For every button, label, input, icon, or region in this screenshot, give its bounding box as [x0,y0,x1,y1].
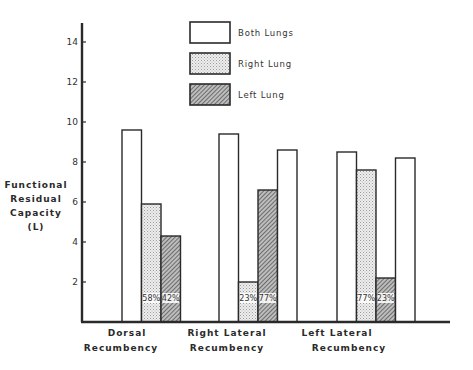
bar [122,130,142,322]
legend-label: Both Lungs [238,28,294,38]
bar [278,150,298,322]
bar-annotation: 42% [162,294,180,303]
y-tick-label: 6 [72,197,78,207]
y-tick-label: 8 [72,157,78,167]
labels: FunctionalResidualCapacity(L)DorsalRecum… [5,180,387,353]
y-axis-label: Residual [10,194,61,204]
y-tick-label: 12 [67,77,78,87]
y-axis-label: (L) [28,222,45,232]
legend-label: Left Lung [238,90,285,100]
x-category-label: Right Lateral [187,328,266,338]
bar [396,158,416,322]
y-axis-label: Functional [5,180,68,190]
y-tick-label: 4 [72,237,78,247]
chart-legend: Both LungsRight LungLeft Lung [190,22,294,105]
y-axis-label: Capacity [10,208,62,218]
bar [142,204,162,322]
bar-annotation: 23% [377,294,395,303]
y-tick-label: 10 [67,117,79,127]
legend-swatch-stipple [190,53,230,74]
x-category-label: Recumbency [312,343,386,353]
bars: 58%42%23%77%77%23% [122,130,415,322]
y-tick-label: 14 [67,37,79,47]
bar [219,134,239,322]
bar-annotation: 23% [239,294,257,303]
bar-annotation: 77% [357,294,375,303]
x-category-label: Left Lateral [301,328,372,338]
bar [161,236,181,322]
bar-annotation: 58% [142,294,160,303]
x-category-label: Recumbency [190,343,264,353]
x-category-label: Dorsal [108,328,147,338]
bar-chart: Both LungsRight LungLeft Lung 58%42%23%7… [0,0,473,370]
legend-swatch-hatch [190,84,230,105]
legend-label: Right Lung [238,59,292,69]
legend-swatch-white [190,22,230,43]
x-category-label: Recumbency [84,343,158,353]
bar-annotation: 77% [259,294,277,303]
bar [337,152,357,322]
y-tick-label: 2 [72,277,78,287]
